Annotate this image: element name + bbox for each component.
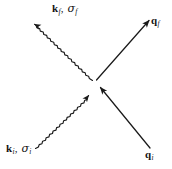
outgoing-straight-line — [97, 21, 150, 81]
label-outgoing-momentum: qf — [151, 15, 160, 28]
label-qf-subscript: f — [157, 19, 159, 28]
incoming-straight-line — [101, 88, 151, 149]
incoming-wavy-line — [36, 96, 89, 149]
label-ki-spin-subscript: i — [29, 147, 31, 156]
label-outgoing-particle: kf, σf — [52, 3, 78, 16]
label-incoming-momentum: qi — [145, 149, 154, 162]
label-kf-spin: σ — [67, 2, 75, 15]
label-qi-subscript: i — [151, 153, 153, 162]
label-incoming-particle: ki, σi — [6, 143, 32, 156]
feynman-diagram: kf, σf ki, σi qf qi — [0, 0, 172, 169]
label-ki-spin: σ — [21, 142, 29, 155]
outgoing-wavy-line — [35, 24, 93, 80]
label-kf-spin-subscript: f — [75, 7, 77, 16]
